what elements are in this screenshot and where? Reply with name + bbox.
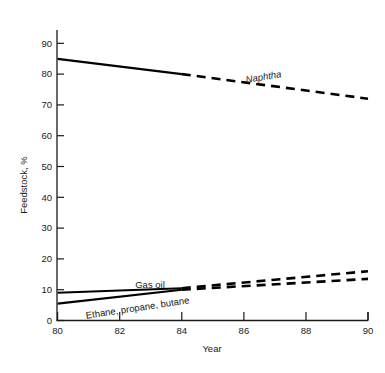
x-tick-label-86: 86 [239,325,250,336]
x-tick-label-90: 90 [363,325,374,336]
y-tick-label-60: 60 [41,130,52,141]
line-chart-svg: 0 10 20 30 40 50 60 70 80 90 80 82 84 86… [0,0,385,373]
y-tick-label-10: 10 [41,284,52,295]
gas-oil-series-label: Gas oil [135,279,165,290]
y-tick-label-50: 50 [41,161,52,172]
y-tick-label-0: 0 [47,315,52,326]
axes-group [56,30,368,321]
y-tick-label-40: 40 [41,192,52,203]
chart-figure: 0 10 20 30 40 50 60 70 80 90 80 82 84 86… [0,0,385,373]
x-axis-tick-labels: 80 82 84 86 88 90 [52,325,373,336]
y-axis-tick-labels: 0 10 20 30 40 50 60 70 80 90 [41,38,52,326]
y-tick-label-80: 80 [41,68,52,79]
y-axis-title: Feedstock, % [18,156,29,214]
y-tick-label-70: 70 [41,99,52,110]
x-tick-label-88: 88 [301,325,312,336]
naphtha-solid-segment [58,59,182,74]
y-tick-label-30: 30 [41,222,52,233]
y-tick-label-20: 20 [41,253,52,264]
series-naphtha: Naphtha [58,59,368,99]
x-tick-label-84: 84 [177,325,188,336]
x-tick-label-82: 82 [114,325,125,336]
naphtha-series-label: Naphtha [245,68,282,85]
y-tick-label-90: 90 [41,38,52,49]
y-axis-ticks [57,43,64,320]
x-axis-title: Year [202,343,221,354]
x-tick-label-80: 80 [52,325,63,336]
